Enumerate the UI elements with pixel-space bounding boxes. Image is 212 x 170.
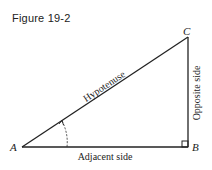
angle-arrowhead-icon [59,121,64,126]
right-triangle-diagram: A B C Hypotenuse Adjacent side Opposite … [0,0,212,170]
vertex-label-b: B [192,141,199,153]
vertex-label-c: C [183,25,191,37]
hypotenuse-label: Hypotenuse [81,68,127,104]
opposite-side-label: Opposite side [191,65,202,120]
vertex-label-a: A [9,141,17,153]
angle-arc-icon [62,121,67,147]
right-angle-marker [182,141,188,147]
adjacent-side-label: Adjacent side [78,151,133,162]
